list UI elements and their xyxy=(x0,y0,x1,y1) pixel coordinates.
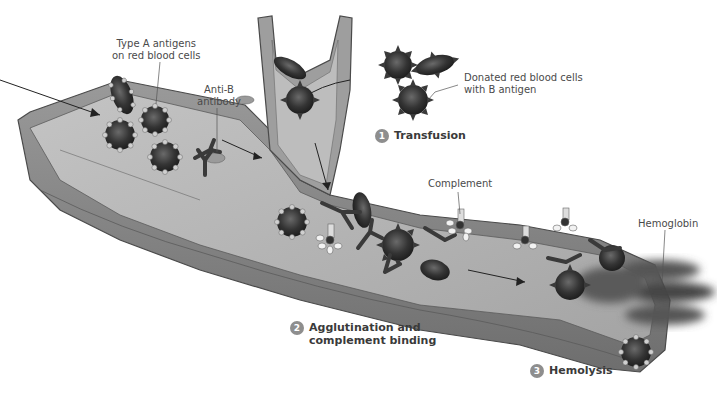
label-donated-line1: Donated red blood cells xyxy=(464,72,583,84)
step-2-agglutination: 2 Agglutination and complement binding xyxy=(290,321,436,347)
label-type-a-line1: Type A antigens xyxy=(112,38,201,50)
label-donated-cells: Donated red blood cells with B antigen xyxy=(464,72,583,96)
step-number-badge: 3 xyxy=(530,364,544,378)
step-2-line1: Agglutination and xyxy=(309,321,436,334)
blood-vessel xyxy=(18,16,715,372)
step-1-label: Transfusion xyxy=(394,129,466,142)
step-3-hemolysis: 3 Hemolysis xyxy=(530,364,613,378)
label-donated-line2: with B antigen xyxy=(464,84,583,96)
step-1-transfusion: 1 Transfusion xyxy=(375,129,466,143)
label-type-a-antigens: Type A antigens on red blood cells xyxy=(112,38,201,62)
label-anti-b-line2: antibody xyxy=(197,96,241,108)
label-type-a-line2: on red blood cells xyxy=(112,50,201,62)
label-hemoglobin: Hemoglobin xyxy=(638,218,698,230)
label-complement: Complement xyxy=(428,178,492,190)
step-number-badge: 2 xyxy=(290,321,304,335)
step-2-label: Agglutination and complement binding xyxy=(309,321,436,347)
label-anti-b-antibody: Anti-B antibody xyxy=(197,84,241,108)
label-anti-b-line1: Anti-B xyxy=(197,84,241,96)
step-3-label: Hemolysis xyxy=(549,364,613,377)
step-2-line2: complement binding xyxy=(309,334,436,347)
step-number-badge: 1 xyxy=(375,129,389,143)
